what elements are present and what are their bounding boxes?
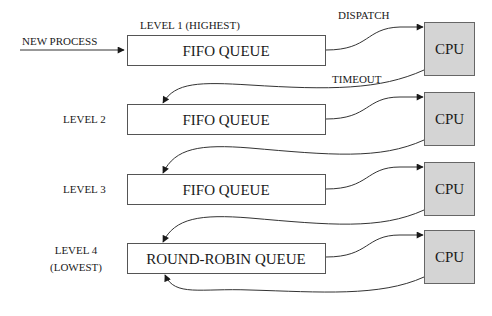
level-1-cpu-label: CPU (435, 41, 464, 57)
level-1-label: LEVEL 1 (HIGHEST) (140, 19, 240, 32)
level-4-roundrobin-return-arrow (165, 275, 424, 292)
level-1-dispatch-arrow (326, 27, 423, 50)
level-3-label: LEVEL 3 (63, 183, 106, 195)
level-3-cpu-label: CPU (435, 181, 464, 197)
dispatch-label: DISPATCH (338, 9, 390, 21)
level-2-timeout-arrow (163, 140, 424, 173)
level-4-label-lowest: (LOWEST) (50, 261, 102, 274)
level-4-queue-label: ROUND-ROBIN QUEUE (146, 251, 306, 267)
level-1-timeout-arrow (163, 70, 424, 103)
level-3-dispatch-arrow (326, 167, 423, 189)
level-1-queue-label: FIFO QUEUE (182, 43, 269, 59)
level-4-dispatch-arrow (326, 235, 423, 257)
level-2-dispatch-arrow (326, 97, 423, 119)
timeout-label: TIMEOUT (332, 73, 382, 85)
level-1: LEVEL 1 (HIGHEST) FIFO QUEUE CPU DISPATC… (128, 9, 475, 103)
level-4-label: LEVEL 4 (55, 244, 98, 256)
level-2-label: LEVEL 2 (63, 113, 106, 125)
new-process-label: NEW PROCESS (22, 35, 97, 47)
level-2-cpu-label: CPU (435, 111, 464, 127)
level-3: LEVEL 3 FIFO QUEUE CPU (63, 163, 475, 243)
level-2-queue-label: FIFO QUEUE (182, 112, 269, 128)
level-2: LEVEL 2 FIFO QUEUE CPU (63, 93, 475, 174)
level-3-queue-label: FIFO QUEUE (182, 182, 269, 198)
level-4-cpu-label: CPU (435, 249, 464, 265)
mlfq-diagram: NEW PROCESS LEVEL 1 (HIGHEST) FIFO QUEUE… (0, 0, 492, 316)
level-4: LEVEL 4 (LOWEST) ROUND-ROBIN QUEUE CPU (50, 231, 474, 293)
